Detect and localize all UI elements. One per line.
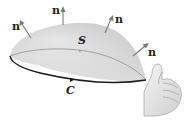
diagram-graphic bbox=[0, 0, 190, 120]
surface-s bbox=[10, 23, 146, 81]
surface-label: S bbox=[78, 35, 86, 46]
normal-arrow-right bbox=[133, 43, 149, 56]
right-hand-icon bbox=[144, 64, 181, 116]
curve-label: C bbox=[66, 85, 75, 96]
normal-label-top: n bbox=[52, 5, 60, 16]
normal-arrow-top bbox=[61, 6, 66, 25]
stokes-theorem-diagram: n n n n S C bbox=[0, 0, 190, 120]
normal-label-left: n bbox=[12, 21, 20, 32]
normal-label-upper-right: n bbox=[115, 14, 123, 25]
normal-arrow-left bbox=[20, 20, 32, 38]
normal-label-right: n bbox=[148, 47, 156, 58]
